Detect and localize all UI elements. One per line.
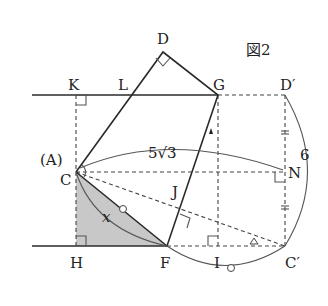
label-d: D xyxy=(157,30,169,48)
label-i: I xyxy=(214,254,220,272)
right-angle-i xyxy=(208,236,218,246)
circle-mark-arc xyxy=(228,265,235,272)
label-cprime: C′ xyxy=(285,254,300,272)
open-triangle-angle-mark xyxy=(250,238,258,244)
right-angle-n xyxy=(275,172,285,182)
label-dprime: D′ xyxy=(280,76,296,94)
label-l: L xyxy=(118,76,128,94)
label-6: 6 xyxy=(300,146,310,164)
circle-mark-cf xyxy=(120,206,127,213)
label-g: G xyxy=(213,76,225,94)
label-5root3: 5√3 xyxy=(148,144,177,162)
label-a-paren: (A) xyxy=(40,151,63,169)
label-x: x xyxy=(102,208,111,226)
label-j: J xyxy=(170,183,178,201)
geometry-diagram: 図2 D G D′ K L (A) C J N H F I C′ x 5√3 6 xyxy=(0,0,328,306)
label-f: F xyxy=(160,254,170,272)
label-k: K xyxy=(68,76,80,94)
arc-f-cprime xyxy=(167,246,285,266)
arc-5root3 xyxy=(80,149,283,170)
right-angle-k xyxy=(76,95,86,105)
filled-triangle-angle-mark xyxy=(209,128,213,134)
figure-title: 図2 xyxy=(246,41,271,59)
right-angle-j xyxy=(180,214,190,228)
label-n: N xyxy=(288,164,301,182)
label-h: H xyxy=(70,254,83,272)
label-c: C xyxy=(60,171,71,189)
